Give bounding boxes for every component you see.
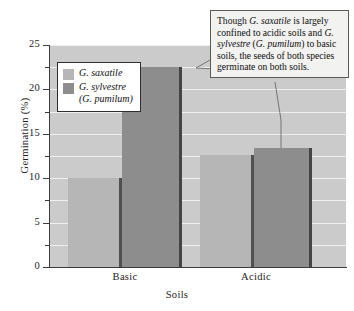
y-tick-major (43, 267, 50, 268)
legend-label: G. sylvestre(G. pumilum) (79, 81, 133, 105)
x-axis-title: Soils (0, 289, 354, 300)
y-tick-major (43, 45, 50, 46)
y-tick-minor (45, 200, 50, 201)
y-tick-major (43, 223, 50, 224)
y-tick-minor (45, 156, 50, 157)
x-tick-label: Basic (80, 271, 170, 282)
callout-species-name: G. pumilum (256, 38, 301, 49)
legend-item: G. saxatile (63, 67, 133, 80)
legend-label: G. saxatile (79, 67, 122, 79)
x-axis-line (49, 267, 347, 268)
y-tick-minor (45, 67, 50, 68)
y-tick-label: 0 (14, 260, 40, 271)
bar (200, 155, 254, 267)
callout-species-name: G. saxatile (249, 15, 291, 26)
bar (254, 148, 312, 267)
legend-swatch (63, 69, 74, 80)
y-tick-minor (45, 245, 50, 246)
x-tick-label: Acidic (211, 271, 301, 282)
y-tick-major (43, 134, 50, 135)
callout-text: Though (217, 15, 249, 26)
legend-sublabel: (G. pumilum) (79, 93, 133, 105)
legend: G. saxatileG. sylvestre(G. pumilum) (57, 62, 141, 112)
germination-bar-chart-figure: 0510152025 BasicAcidic Germination (%) S… (0, 0, 354, 311)
legend-swatch (63, 83, 74, 94)
y-tick-minor (45, 112, 50, 113)
legend-item: G. sylvestre(G. pumilum) (63, 81, 133, 105)
gridline (50, 134, 346, 135)
y-axis-title: Germination (%) (19, 66, 30, 206)
y-tick-major (43, 178, 50, 179)
callout-annotation: Though G. saxatile is largely confined t… (210, 10, 349, 78)
y-tick-label: 25 (14, 38, 40, 49)
bar (68, 178, 122, 267)
y-tick-major (43, 89, 50, 90)
y-tick-label: 5 (14, 216, 40, 227)
